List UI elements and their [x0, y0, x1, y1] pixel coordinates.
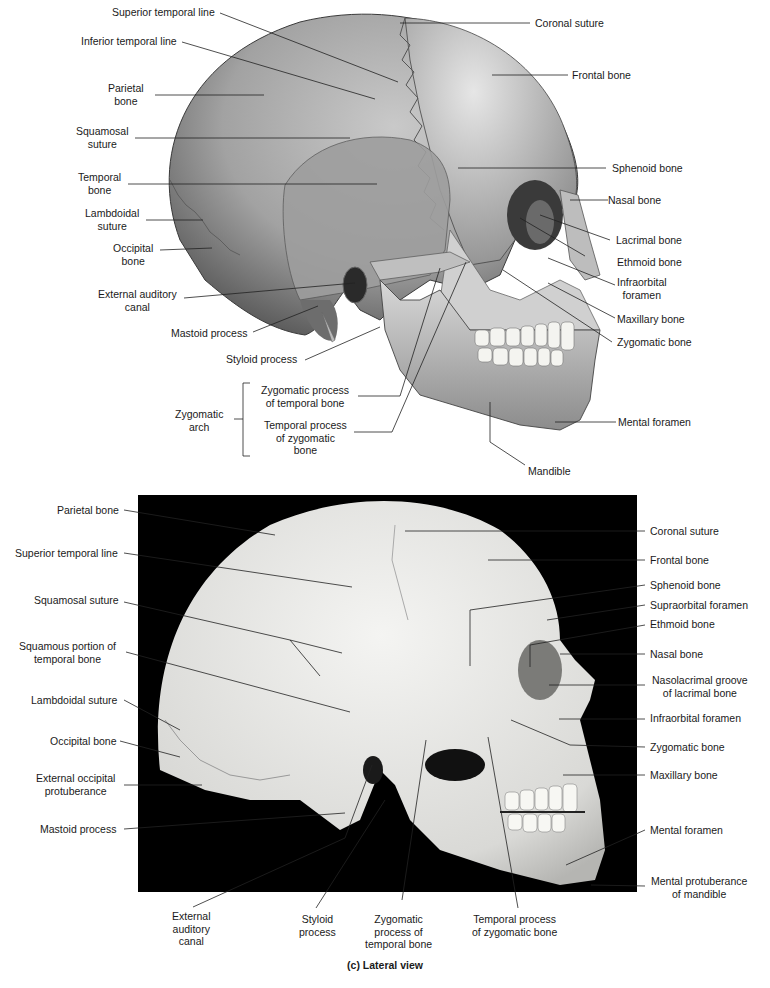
- label-ethmoid-bone-top: Ethmoid bone: [617, 256, 682, 269]
- label-temporal-process-of-zygomatic-bone-bottom: Temporal process of zygomatic bone: [472, 913, 557, 938]
- label-squamosal-suture-top: Squamosal suture: [76, 125, 129, 150]
- label-superior-temporal-line-bottom: Superior temporal line: [15, 547, 118, 560]
- label-squamous-portion-bottom: Squamous portion of temporal bone: [19, 640, 116, 665]
- label-temporal-bone-top: Temporal bone: [78, 171, 121, 196]
- label-infraorbital-foramen-bottom: Infraorbital foramen: [650, 712, 741, 725]
- label-coronal-suture-top: Coronal suture: [535, 17, 604, 30]
- label-occipital-bone-top: Occipital bone: [113, 242, 153, 267]
- label-supraorbital-foramen-bottom: Supraorbital foramen: [650, 599, 748, 612]
- label-coronal-suture-bottom: Coronal suture: [650, 525, 719, 538]
- label-mandible-top: Mandible: [528, 465, 571, 478]
- label-infraorbital-foramen-top: Infraorbital foramen: [617, 276, 667, 301]
- label-mental-foramen-bottom: Mental foramen: [650, 824, 723, 837]
- label-parietal-bone-top: Parietal bone: [108, 82, 144, 107]
- label-zygomatic-bone-top: Zygomatic bone: [617, 336, 692, 349]
- label-lambdoidal-suture-bottom: Lambdoidal suture: [31, 694, 117, 707]
- label-nasal-bone-top: Nasal bone: [608, 194, 661, 207]
- label-occipital-bone-bottom: Occipital bone: [50, 735, 117, 748]
- label-squamosal-suture-bottom: Squamosal suture: [34, 594, 119, 607]
- label-mastoid-process-bottom: Mastoid process: [40, 823, 116, 836]
- label-frontal-bone-bottom: Frontal bone: [650, 554, 709, 567]
- figure-caption: (c) Lateral view: [0, 959, 770, 971]
- label-maxillary-bone-bottom: Maxillary bone: [650, 769, 718, 782]
- skull-lateral-diagram: Superior temporal line Inferior temporal…: [0, 0, 770, 988]
- label-sphenoid-bone-top: Sphenoid bone: [612, 162, 683, 175]
- label-nasolacrimal-groove-bottom: Nasolacrimal groove of lacrimal bone: [652, 674, 748, 699]
- label-lambdoidal-suture-top: Lambdoidal suture: [85, 207, 139, 232]
- label-superior-temporal-line-top: Superior temporal line: [112, 6, 215, 19]
- label-styloid-process-bottom: Styloid process: [299, 913, 336, 938]
- label-maxillary-bone-top: Maxillary bone: [617, 313, 685, 326]
- label-mental-foramen-top: Mental foramen: [618, 416, 691, 429]
- label-nasal-bone-bottom: Nasal bone: [650, 648, 703, 661]
- label-external-auditory-canal-bottom: External auditory canal: [172, 910, 211, 948]
- label-zygomatic-process-of-temporal-bone-bottom: Zygomatic process of temporal bone: [365, 913, 432, 951]
- label-external-auditory-canal-top: External auditory canal: [98, 288, 177, 313]
- label-mastoid-process-top: Mastoid process: [171, 327, 247, 340]
- label-zygomatic-arch-top: Zygomatic arch: [175, 408, 223, 433]
- label-styloid-process-top: Styloid process: [226, 353, 297, 366]
- label-lacrimal-bone-top: Lacrimal bone: [616, 234, 682, 247]
- label-zygomatic-process-of-temporal-bone-top: Zygomatic process of temporal bone: [261, 384, 349, 409]
- label-temporal-process-of-zygomatic-bone-top: Temporal process of zygomatic bone: [264, 419, 347, 457]
- label-mental-protuberance-bottom: Mental protuberance of mandible: [651, 875, 747, 900]
- label-sphenoid-bone-bottom: Sphenoid bone: [650, 579, 721, 592]
- label-external-occipital-protuberance-bottom: External occipital protuberance: [36, 772, 115, 797]
- label-inferior-temporal-line-top: Inferior temporal line: [81, 35, 177, 48]
- label-zygomatic-bone-bottom: Zygomatic bone: [650, 741, 725, 754]
- label-ethmoid-bone-bottom: Ethmoid bone: [650, 618, 715, 631]
- label-parietal-bone-bottom: Parietal bone: [57, 504, 119, 517]
- label-frontal-bone-top: Frontal bone: [572, 69, 631, 82]
